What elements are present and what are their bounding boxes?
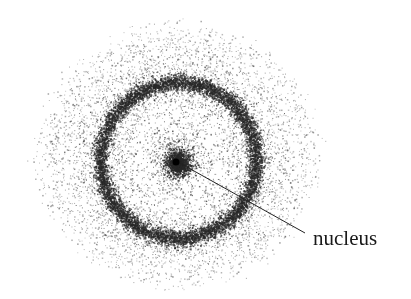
nucleus-label: nucleus [313,226,377,250]
electron-cloud-diagram: nucleus [0,0,411,299]
nucleus-leader-line [178,162,305,233]
nucleus-core [173,159,180,166]
annotation-layer: nucleus [0,0,411,299]
